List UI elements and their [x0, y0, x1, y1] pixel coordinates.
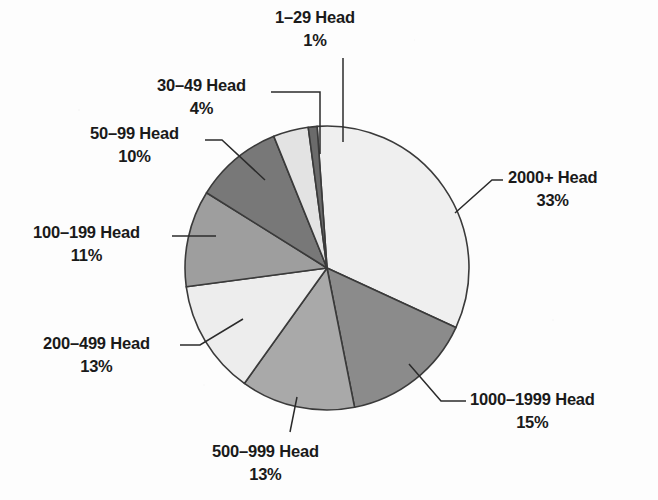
- pie-slice-label: 1–29 Head1%: [275, 6, 355, 53]
- pie-slice-label: 1000–1999 Head15%: [470, 388, 595, 435]
- pie-slice-label: 100–199 Head11%: [33, 221, 140, 268]
- pie-slice-label: 500–999 Head13%: [212, 440, 319, 487]
- pie-slice-label-name: 30–49 Head: [157, 74, 246, 97]
- pie-slice-label-name: 500–999 Head: [212, 440, 319, 463]
- pie-chart-figure: 2000+ Head33%1000–1999 Head15%500–999 He…: [0, 0, 658, 500]
- pie-slice-label-percent: 1%: [275, 29, 355, 52]
- pie-slice-label-percent: 13%: [212, 463, 319, 486]
- pie-slice-label-percent: 33%: [508, 189, 597, 212]
- pie-slice-label-percent: 11%: [33, 244, 140, 267]
- pie-slice-label-name: 100–199 Head: [33, 221, 140, 244]
- pie-slice-label-percent: 13%: [43, 355, 150, 378]
- pie-slice-label: 200–499 Head13%: [43, 332, 150, 379]
- pie-slice-group: [185, 126, 469, 410]
- pie-slice-label-name: 50–99 Head: [90, 122, 179, 145]
- pie-slice-label: 50–99 Head10%: [90, 122, 179, 169]
- pie-slice-label-name: 2000+ Head: [508, 166, 597, 189]
- pie-slice-label-percent: 4%: [157, 97, 246, 120]
- pie-slice-label-name: 200–499 Head: [43, 332, 150, 355]
- pie-slice-label: 2000+ Head33%: [508, 166, 597, 213]
- pie-slice-label-percent: 15%: [470, 411, 595, 434]
- leader-line: [455, 180, 503, 213]
- pie-slice-label-name: 1–29 Head: [275, 6, 355, 29]
- pie-slice-label: 30–49 Head4%: [157, 74, 246, 121]
- pie-slice-label-percent: 10%: [90, 145, 179, 168]
- pie-slice-label-name: 1000–1999 Head: [470, 388, 595, 411]
